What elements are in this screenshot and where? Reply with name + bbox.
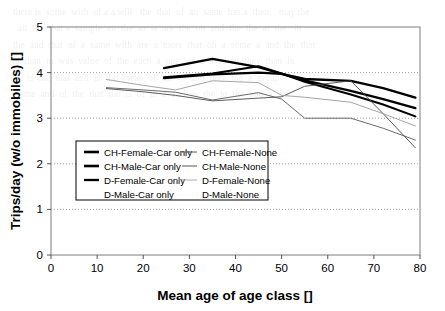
chart-figure: 012345 01020304050607080 CH-Female-Car o… — [0, 0, 445, 311]
legend-label-d-female-car-only: D-Female-Car only — [104, 175, 185, 186]
x-tick-label-20: 20 — [137, 262, 150, 274]
legend-label-ch-female-none: CH-Female-None — [202, 147, 277, 158]
x-tick-label-60: 60 — [321, 262, 334, 274]
y-tick-label-4: 4 — [37, 67, 44, 79]
legend-label-ch-female-car-only: CH-Female-Car only — [104, 147, 192, 158]
y-axis-title: Trips/day (w/o immobiles) [] — [8, 52, 23, 230]
x-tick-label-10: 10 — [91, 262, 104, 274]
y-tick-label-0: 0 — [37, 249, 43, 261]
legend-label-d-female-none: D-Female-None — [202, 175, 270, 186]
y-tick-label-5: 5 — [37, 21, 43, 33]
x-tick-label-30: 30 — [183, 262, 196, 274]
legend-label-ch-male-none: CH-Male-None — [202, 161, 266, 172]
x-tick-label-50: 50 — [275, 262, 288, 274]
x-tick-label-0: 0 — [48, 262, 54, 274]
chart-legend: CH-Female-Car onlyCH-Male-Car onlyD-Fema… — [76, 141, 277, 200]
legend-label-ch-male-car-only: CH-Male-Car only — [104, 161, 181, 172]
y-tick-label-3: 3 — [37, 112, 43, 124]
x-tick-label-80: 80 — [414, 262, 427, 274]
legend-label-d-male-none: D-Male-None — [202, 189, 259, 200]
x-axis-title: Mean age of age class [] — [157, 288, 312, 303]
y-tick-label-1: 1 — [37, 203, 43, 215]
x-tick-label-70: 70 — [367, 262, 380, 274]
x-tick-label-40: 40 — [229, 262, 242, 274]
legend-label-d-male-car-only: D-Male-Car only — [104, 189, 174, 200]
y-tick-label-2: 2 — [37, 158, 43, 170]
